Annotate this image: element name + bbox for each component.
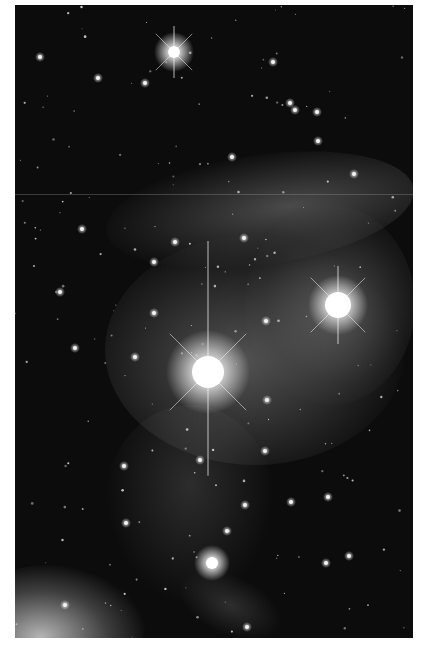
faint-star <box>263 59 265 61</box>
faint-star <box>281 6 282 7</box>
faint-star <box>225 601 226 602</box>
star <box>245 625 249 629</box>
faint-star <box>62 285 65 288</box>
faint-star <box>124 227 126 229</box>
faint-star <box>185 587 186 588</box>
faint-star <box>15 623 17 625</box>
faint-star <box>84 35 87 38</box>
star <box>152 311 156 315</box>
faint-star <box>243 480 246 483</box>
star <box>242 236 246 240</box>
faint-star <box>212 449 214 451</box>
faint-star <box>186 428 189 431</box>
faint-star <box>401 56 403 58</box>
star <box>288 101 292 105</box>
faint-star <box>345 117 347 119</box>
faint-star <box>205 267 206 268</box>
faint-star <box>249 264 251 266</box>
faint-star <box>99 253 101 255</box>
faint-star <box>194 472 196 474</box>
star <box>58 290 62 294</box>
faint-star <box>281 104 283 106</box>
star <box>96 76 100 80</box>
faint-star <box>261 67 262 68</box>
star <box>122 464 126 468</box>
faint-star <box>165 61 167 63</box>
star <box>243 503 247 507</box>
faint-star <box>55 291 57 293</box>
star-field <box>15 5 413 638</box>
faint-star <box>199 163 201 165</box>
faint-star <box>338 393 340 395</box>
lower-star <box>206 557 218 569</box>
faint-star <box>34 227 36 229</box>
faint-star <box>169 162 171 164</box>
faint-star <box>334 265 335 266</box>
faint-star <box>228 530 231 533</box>
faint-star <box>40 229 41 230</box>
faint-star <box>189 243 191 245</box>
faint-star <box>367 604 369 606</box>
faint-star <box>172 175 174 177</box>
faint-star <box>134 248 137 251</box>
faint-star <box>383 548 385 550</box>
faint-star <box>80 6 83 9</box>
faint-star <box>24 222 26 224</box>
faint-star <box>152 404 153 405</box>
star <box>265 398 269 402</box>
star <box>264 319 268 323</box>
faint-star <box>149 70 151 72</box>
faint-star <box>370 364 371 365</box>
faint-star <box>346 477 348 479</box>
faint-star <box>115 305 116 306</box>
faint-star <box>181 352 183 354</box>
star <box>289 500 293 504</box>
faint-star <box>210 359 211 360</box>
faint-star <box>82 628 84 630</box>
faint-star <box>254 258 256 260</box>
star <box>80 227 84 231</box>
faint-star <box>189 535 191 537</box>
faint-star <box>20 160 21 161</box>
faint-star <box>24 102 26 104</box>
star <box>143 81 147 85</box>
faint-star <box>392 196 395 199</box>
faint-star <box>247 422 249 424</box>
faint-star <box>265 239 267 241</box>
faint-star <box>113 310 114 311</box>
faint-star <box>22 200 24 202</box>
faint-star <box>325 443 326 444</box>
faint-star <box>225 271 226 272</box>
faint-star <box>215 484 217 486</box>
faint-star <box>89 197 90 198</box>
star <box>173 240 177 244</box>
faint-star <box>195 354 198 357</box>
faint-star <box>138 521 140 523</box>
faint-star <box>59 212 60 213</box>
faint-star <box>231 631 233 633</box>
star <box>133 355 137 359</box>
faint-star <box>45 562 46 563</box>
faint-star <box>172 557 174 559</box>
faint-star <box>185 447 187 449</box>
faint-star <box>35 238 37 240</box>
faint-star <box>61 539 63 541</box>
faint-star <box>235 20 237 22</box>
faint-star <box>234 330 236 332</box>
faint-star <box>104 362 106 364</box>
faint-star <box>201 343 203 345</box>
faint-star <box>57 318 59 320</box>
faint-star <box>298 556 300 558</box>
faint-star <box>111 334 113 336</box>
faint-star <box>207 163 209 165</box>
faint-star <box>392 5 394 7</box>
faint-star <box>276 558 277 559</box>
star <box>263 449 267 453</box>
star <box>347 554 351 558</box>
faint-star <box>158 163 159 164</box>
faint-star <box>329 91 330 92</box>
faint-star <box>26 361 28 363</box>
faint-star <box>282 191 284 193</box>
faint-star <box>87 420 88 421</box>
faint-star <box>151 450 153 452</box>
